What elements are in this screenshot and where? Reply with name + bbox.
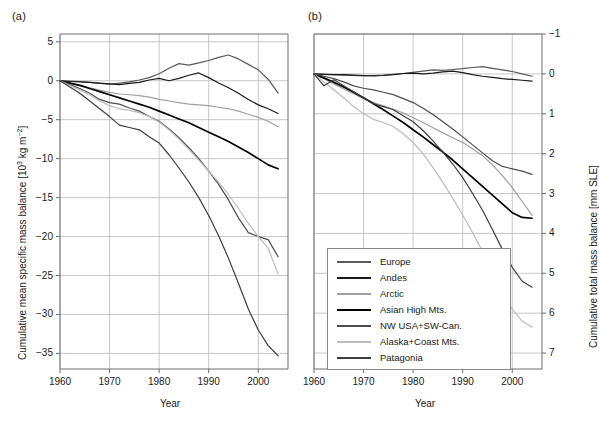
y-tick-label: 0 — [549, 68, 579, 79]
y-tick-label: 6 — [549, 307, 579, 318]
x-tick-label: 1980 — [139, 376, 179, 387]
legend-line-icon — [337, 341, 371, 343]
x-tick-label: 1980 — [393, 376, 433, 387]
legend-item: Alaska+Coast Mts. — [328, 334, 510, 350]
legend-line-icon — [337, 309, 371, 311]
y-tick-label: 1 — [549, 108, 579, 119]
legend-item: Asian High Mts. — [328, 302, 510, 318]
legend-item-label: Alaska+Coast Mts. — [380, 337, 459, 347]
series-line — [60, 55, 278, 93]
legend-item: Europe — [328, 254, 510, 270]
y-tick-label: −20 — [23, 231, 53, 242]
legend-box: EuropeAndesArcticAsian High Mts.NW USA+S… — [327, 248, 511, 370]
y-tick-label: 3 — [549, 188, 579, 199]
y-tick-label: −35 — [23, 347, 53, 358]
x-tick-label: 1960 — [40, 376, 80, 387]
y-tick-label: 2 — [549, 148, 579, 159]
series-line — [60, 81, 278, 257]
x-tick-label: 1970 — [344, 376, 384, 387]
x-tick-label: 1990 — [189, 376, 229, 387]
y-tick-label: 4 — [549, 227, 579, 238]
legend-item: Arctic — [328, 286, 510, 302]
legend-item: Patagonia — [328, 350, 510, 366]
y-tick-label: −1 — [549, 28, 579, 39]
x-tick-label: 1960 — [294, 376, 334, 387]
y-tick-label: 0 — [23, 75, 53, 86]
series-line — [314, 71, 532, 81]
y-tick-label: −15 — [23, 192, 53, 203]
y-tick-label: 5 — [23, 36, 53, 47]
legend-item: NW USA+SW-Can. — [328, 318, 510, 334]
legend-item-label: NW USA+SW-Can. — [380, 321, 462, 331]
legend-item-label: Asian High Mts. — [380, 305, 447, 315]
series-line — [60, 73, 278, 114]
legend-line-icon — [337, 261, 371, 263]
x-tick-label: 1970 — [90, 376, 130, 387]
y-tick-label: −5 — [23, 114, 53, 125]
y-tick-label: −30 — [23, 308, 53, 319]
legend-item-label: Arctic — [380, 289, 404, 299]
y-tick-label: 5 — [549, 267, 579, 278]
legend-line-icon — [337, 277, 371, 279]
legend-line-icon — [337, 325, 371, 327]
x-tick-label: 2000 — [492, 376, 532, 387]
series-line — [314, 74, 532, 218]
legend-item: Andes — [328, 270, 510, 286]
x-tick-label: 1990 — [443, 376, 483, 387]
y-tick-label: −25 — [23, 270, 53, 281]
legend-item-label: Andes — [380, 273, 407, 283]
legend-item-label: Patagonia — [380, 353, 423, 363]
y-tick-label: 7 — [549, 347, 579, 358]
legend-line-icon — [337, 357, 371, 359]
series-line — [60, 81, 278, 274]
y-tick-label: −10 — [23, 153, 53, 164]
series-line — [314, 74, 532, 216]
legend-line-icon — [337, 293, 371, 295]
x-tick-label: 2000 — [238, 376, 278, 387]
legend-item-label: Europe — [380, 257, 411, 267]
